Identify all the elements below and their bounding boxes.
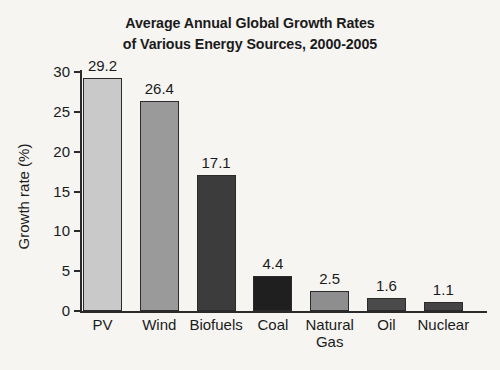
bar-coal[interactable] xyxy=(253,276,292,311)
bar-value-label: 26.4 xyxy=(145,81,174,96)
bar-value-label: 17.1 xyxy=(201,155,230,170)
y-tick-mark xyxy=(74,151,81,153)
bar-wind[interactable] xyxy=(140,101,179,311)
x-axis-line xyxy=(80,311,487,313)
x-category-label: Nuclear xyxy=(403,316,483,333)
bar-natural[interactable] xyxy=(310,291,349,311)
bar-value-label: 1.6 xyxy=(376,278,397,293)
bar-value-label: 29.2 xyxy=(88,58,117,73)
bar-value-label: 1.1 xyxy=(433,282,454,297)
y-tick-mark xyxy=(74,71,81,73)
y-tick-mark xyxy=(74,310,81,312)
bar-oil[interactable] xyxy=(367,298,406,311)
y-tick-label: 25 xyxy=(26,104,70,119)
y-tick-mark xyxy=(74,230,81,232)
bar-pv[interactable] xyxy=(83,78,122,311)
x-category-label-line-2: Gas xyxy=(290,333,370,350)
plot-area: Growth rate (%) 051015202530 29.2PV26.4W… xyxy=(0,0,500,370)
bar-nuclear[interactable] xyxy=(424,302,463,311)
bar-value-label: 2.5 xyxy=(319,271,340,286)
y-tick-label: 10 xyxy=(26,223,70,238)
y-tick-mark xyxy=(74,270,81,272)
bar-biofuels[interactable] xyxy=(197,175,236,311)
y-tick-label: 20 xyxy=(26,144,70,159)
y-tick-label: 15 xyxy=(26,184,70,199)
y-tick-label: 30 xyxy=(26,64,70,79)
bar-value-label: 4.4 xyxy=(262,256,283,271)
y-tick-mark xyxy=(74,191,81,193)
chart-figure: Average Annual Global Growth Rates of Va… xyxy=(0,0,500,370)
x-category-label-line-1: Nuclear xyxy=(403,316,483,333)
y-tick-label: 5 xyxy=(26,263,70,278)
y-tick-mark xyxy=(74,111,81,113)
